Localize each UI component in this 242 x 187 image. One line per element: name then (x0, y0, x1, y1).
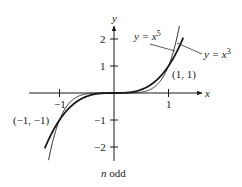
y-tick-label-1: 1 (100, 60, 106, 72)
leader-line-x3 (177, 43, 202, 54)
series-label-x5: y = x5 (133, 29, 161, 42)
series-label-x3: y = x3 (203, 47, 231, 60)
y-tick-label-neg2: −2 (94, 141, 106, 153)
annotation-1-1: (1, 1) (172, 68, 196, 81)
x-tick-label-1: 1 (166, 98, 172, 110)
y-axis-label: y (111, 12, 117, 24)
chart: x y −1 1 2 1 −1 −2 y = x5 y = x3 (1, 1) … (0, 0, 242, 187)
x-axis-label: x (204, 87, 210, 99)
chart-caption: n odd (101, 167, 126, 179)
x-tick-label-neg1: −1 (54, 98, 66, 110)
y-tick-label-neg1: −1 (94, 114, 106, 126)
y-tick-label-2: 2 (100, 33, 106, 45)
annotation-neg1-neg1: (−1, −1) (13, 114, 50, 127)
leader-line-x5 (150, 44, 175, 51)
